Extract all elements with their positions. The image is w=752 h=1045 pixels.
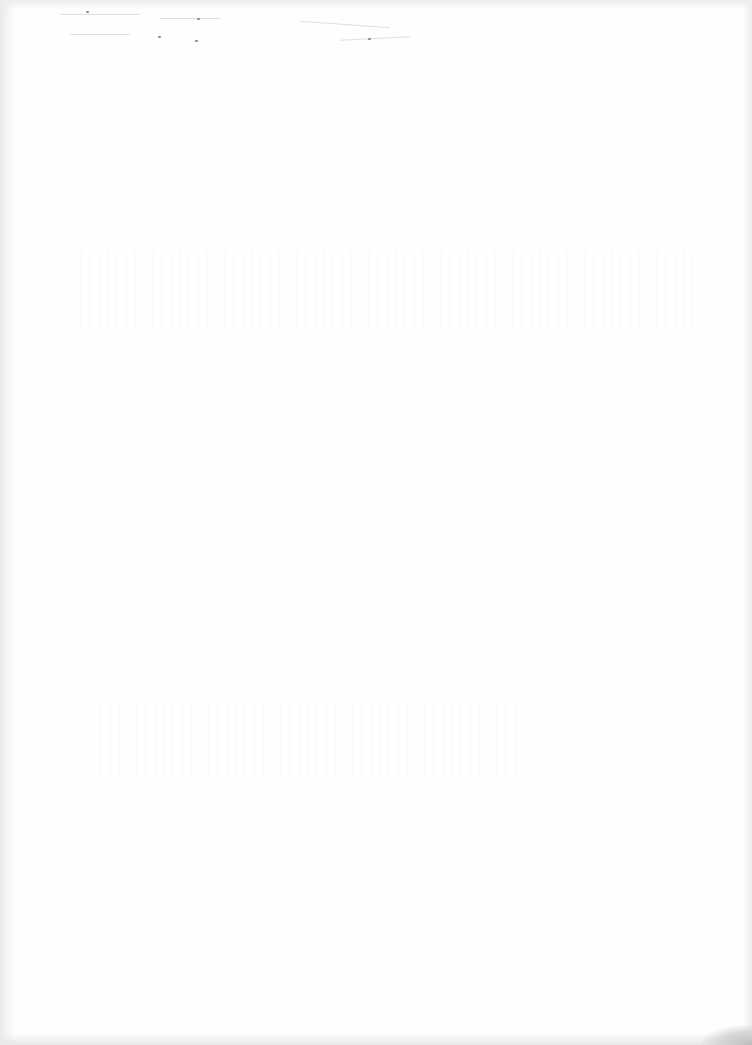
scan-edge-shadow-top: [0, 0, 752, 10]
scan-edge-shadow-right: [742, 0, 752, 1045]
scan-edge-shadow-left: [0, 0, 14, 1045]
faint-show-through-1: [80, 250, 700, 330]
scanned-blank-page: [0, 0, 752, 1045]
faint-show-through-2: [100, 700, 520, 780]
scan-edge-shadow-bottom: [0, 1033, 752, 1045]
curled-corner-bottom-right: [702, 1025, 752, 1045]
